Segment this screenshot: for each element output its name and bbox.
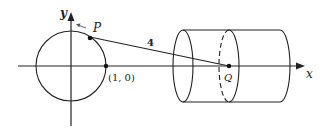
- y-axis: [68, 12, 75, 126]
- x-axis: [18, 63, 305, 70]
- rotation-arrow-icon: [76, 24, 86, 29]
- label-one-zero: (1, 0): [108, 72, 135, 83]
- y-axis-label: y: [59, 6, 68, 20]
- x-axis-arrow-icon: [296, 63, 305, 70]
- rod-segment: [90, 37, 229, 66]
- label-rod-length: 4: [147, 37, 154, 48]
- point-one-zero-dot: [104, 64, 108, 68]
- point-p-dot: [88, 36, 93, 41]
- label-q: Q: [224, 72, 232, 83]
- y-axis-arrow-icon: [68, 12, 75, 21]
- point-q-dot: [227, 64, 231, 68]
- label-p: P: [92, 21, 102, 35]
- diagram-canvas: y x P Q (1, 0) 4: [0, 0, 324, 133]
- x-axis-label: x: [306, 67, 313, 81]
